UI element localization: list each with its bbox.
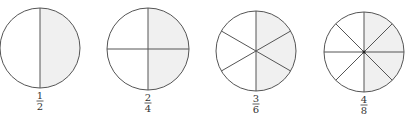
division-line: [336, 52, 364, 80]
shaded-wedge: [40, 8, 80, 88]
shaded-region: [256, 11, 296, 91]
fraction-denominator: 4: [145, 103, 151, 114]
fraction-denominator: 2: [37, 101, 43, 112]
center-dot: [363, 51, 366, 54]
fraction-figure-2-4: 2 4: [107, 8, 189, 114]
fraction-numerator: 2: [145, 92, 151, 103]
fraction-numerator: 4: [361, 94, 367, 105]
division-line: [336, 24, 364, 52]
fraction-figure-4-8: 4 8: [324, 12, 404, 116]
division-line: [221, 51, 256, 71]
fraction-figure-3-6: 3 6: [216, 11, 296, 115]
fraction-denominator: 8: [361, 105, 367, 116]
fraction-numerator: 1: [37, 90, 43, 101]
fraction-denominator: 6: [253, 104, 259, 115]
fraction-figure-1-2: 1 2: [0, 8, 80, 112]
fraction-numerator: 3: [253, 93, 259, 104]
shaded-wedge: [256, 11, 296, 91]
shaded-region: [40, 8, 80, 88]
fraction-circles-diagram: 1 2 2 4 3 6 4 8: [0, 0, 407, 119]
division-line: [221, 31, 256, 51]
